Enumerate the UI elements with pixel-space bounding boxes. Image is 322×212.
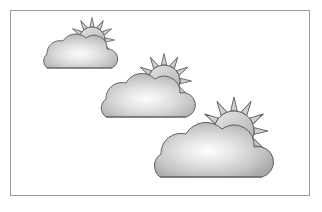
image-canvas	[0, 0, 322, 212]
border-frame	[10, 10, 310, 196]
